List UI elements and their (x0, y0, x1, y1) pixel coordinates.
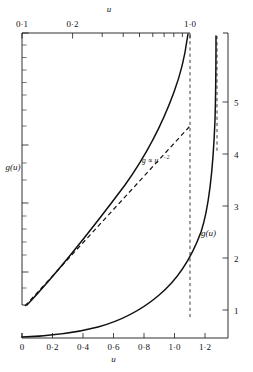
bottom-tick-label-1-2: 1·2 (199, 342, 211, 352)
power-law-annotation: g ∝ u −2 (142, 154, 170, 166)
right-tick-label-2: 2 (234, 254, 239, 264)
top-tick-label-0-2: 0·2 (67, 19, 79, 29)
top-tick-label-1-0: 1·0 (184, 19, 196, 29)
top-tick-label-0-1: 0·1 (16, 19, 28, 29)
caption-sliver (8, 367, 188, 372)
linear-panel-curve (22, 36, 216, 337)
right-tick-label-3: 3 (234, 202, 239, 212)
right-axis-ticks (223, 102, 229, 310)
bottom-tick-label-1-0: 1·0 (169, 342, 181, 352)
right-tick-label-5: 5 (234, 98, 239, 108)
right-tick-label-1: 1 (234, 306, 239, 316)
log-panel-curve (27, 34, 188, 305)
bottom-tick-label-0-2: 0·2 (47, 342, 59, 352)
annotation-base: g ∝ u (142, 156, 159, 165)
dual-axis-plot: 0·1 0·2 1·0 u g(u) (0, 0, 253, 372)
figure-root: 0·1 0·2 1·0 u g(u) (0, 0, 253, 372)
bottom-tick-label-0-4: 0·4 (77, 342, 89, 352)
bottom-tick-label-0-6: 0·6 (108, 342, 120, 352)
bottom-tick-label-0-8: 0·8 (138, 342, 150, 352)
top-axis-label-u: u (107, 4, 112, 14)
top-axis-ticks (22, 33, 190, 39)
log-panel-axes (22, 33, 190, 305)
bottom-tick-label-0: 0 (20, 342, 25, 352)
annotation-exponent: −2 (163, 154, 170, 160)
left-axis-ticks (22, 33, 29, 288)
right-tick-label-4: 4 (234, 150, 239, 160)
bottom-axis-label-u: u (111, 354, 116, 364)
left-axis-label-gu: g(u) (6, 162, 21, 172)
right-axis-label-gu: g(u) (201, 228, 216, 238)
